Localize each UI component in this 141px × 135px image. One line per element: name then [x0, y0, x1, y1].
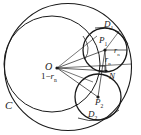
label-d1-subscript: 1: [111, 25, 114, 31]
dot-p1: [103, 48, 106, 51]
label-outer-circle-c: C: [5, 100, 12, 111]
label-rn2-subscript: n: [108, 61, 110, 66]
dot-n: [105, 70, 108, 73]
segment-o-to-p1: [57, 50, 105, 68]
label-p1-subscript: 1: [105, 41, 108, 47]
label-point-p1: P1: [99, 36, 107, 47]
label-radius-horizontal: rn: [114, 47, 120, 58]
label-region-d2: D2: [88, 110, 97, 121]
dot-o: [55, 66, 58, 69]
label-p2-subscript: 2: [101, 103, 104, 109]
segment-o-to-n: [57, 68, 108, 71]
label-region-d1: D1: [104, 20, 113, 31]
segment-o-upper-ray: [57, 36, 97, 68]
label-point-n: N: [109, 72, 115, 81]
label-d2-subscript: 2: [95, 115, 98, 121]
geometry-figure: [0, 0, 141, 135]
figure-canvas: C O P1 P2 N D1 D2 rn rn 1−rn: [0, 0, 141, 135]
label-rn1-subscript: n: [117, 52, 119, 57]
label-distance-r-subscript: n: [54, 77, 57, 83]
label-point-p2: P2: [95, 98, 103, 109]
label-radius-vertical: rn: [105, 56, 111, 67]
label-distance-one-minus-rn: 1−rn: [41, 72, 57, 83]
segment-o-to-p2: [57, 68, 98, 97]
